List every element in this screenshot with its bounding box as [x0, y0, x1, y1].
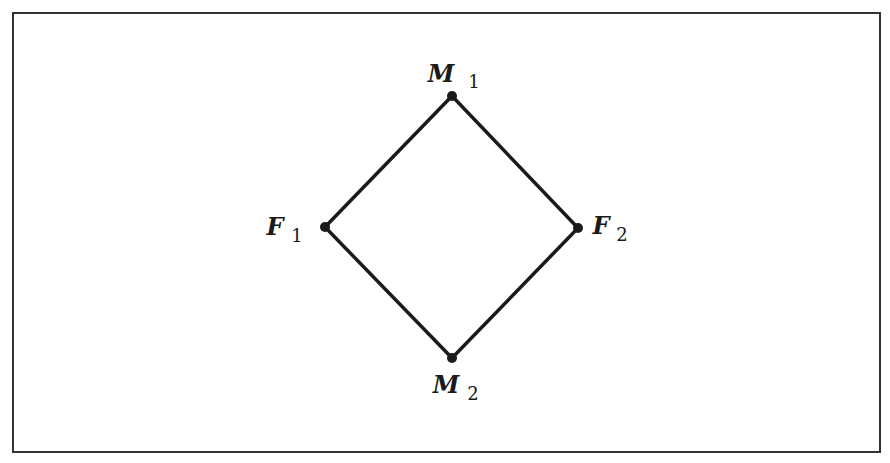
- nodes: [320, 91, 583, 363]
- label-m1: M 1: [427, 59, 480, 92]
- label-m1-letter: M: [427, 59, 456, 88]
- edges: [325, 96, 578, 358]
- node-f2: [573, 223, 583, 233]
- node-m1: [447, 91, 457, 101]
- node-m2: [447, 353, 457, 363]
- label-f2: F 2: [591, 211, 627, 245]
- label-m2: M 2: [432, 370, 479, 404]
- label-m2-letter: M: [432, 370, 461, 399]
- edge-m1-f1: [325, 96, 452, 227]
- label-m2-subscript: 2: [467, 383, 478, 404]
- label-f2-subscript: 2: [616, 224, 627, 245]
- node-f1: [320, 222, 330, 232]
- edge-f2-m2: [452, 228, 578, 358]
- label-f1-letter: F: [265, 212, 285, 241]
- label-f1-subscript: 1: [291, 225, 302, 246]
- label-f1: F 1: [265, 212, 302, 246]
- edge-m1-f2: [452, 96, 578, 228]
- label-f2-letter: F: [591, 211, 611, 240]
- edge-f1-m2: [325, 227, 452, 358]
- lattice-diagram: M 1 F 1 F 2 M 2: [0, 0, 890, 463]
- label-m1-subscript: 1: [468, 71, 479, 92]
